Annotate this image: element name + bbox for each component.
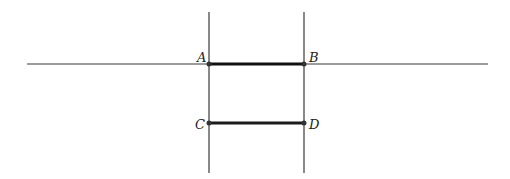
point-A [207, 62, 212, 67]
diagram-svg [0, 0, 510, 179]
label-A: A [197, 51, 206, 64]
point-C [207, 121, 212, 126]
diagram-canvas: A B C D [0, 0, 510, 179]
point-D [302, 121, 307, 126]
label-D: D [309, 118, 319, 131]
point-B [302, 62, 307, 67]
label-B: B [309, 51, 319, 64]
label-C: C [195, 118, 205, 131]
